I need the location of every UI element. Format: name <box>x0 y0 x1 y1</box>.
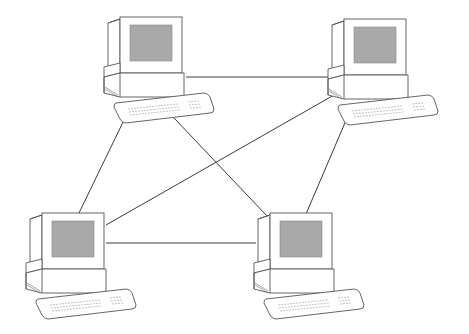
link-tl-bl <box>78 118 125 215</box>
network-diagram <box>0 0 469 334</box>
desktop-computer-icon <box>104 17 214 123</box>
desktop-computer-icon <box>26 213 136 319</box>
computer-bottom-right <box>254 213 364 319</box>
desktop-computer-icon <box>328 19 438 125</box>
desktop-computer-icon <box>254 213 364 319</box>
computer-top-right <box>328 19 438 125</box>
computer-bottom-left <box>26 213 136 319</box>
link-tl-br <box>174 118 267 216</box>
link-tr-br <box>306 111 350 214</box>
computer-top-left <box>104 17 214 123</box>
